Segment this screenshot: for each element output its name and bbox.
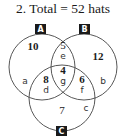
svg-text:C: C [59, 127, 65, 136]
letter-a: a [22, 76, 28, 86]
tag-a: A [35, 24, 46, 34]
region-abc-value: 4 [60, 64, 66, 76]
svg-text:B: B [81, 25, 87, 34]
letter-g: g [60, 76, 66, 86]
region-b-only-value: 12 [93, 50, 105, 62]
region-a-only-value: 10 [28, 40, 40, 52]
tag-b: B [79, 24, 90, 34]
letter-b: b [100, 76, 106, 86]
svg-text:A: A [37, 25, 44, 34]
region-ab-value: 5 [60, 39, 66, 51]
letter-d: d [43, 85, 49, 95]
letter-e: e [60, 51, 66, 61]
letter-f: f [80, 85, 84, 95]
venn-diagram: A B C 10 12 7 5 8 6 4 a b c d e f g [0, 0, 126, 140]
region-bc-value: 6 [79, 73, 85, 85]
tag-c: C [56, 126, 67, 136]
letter-c: c [84, 103, 89, 113]
region-ac-value: 8 [43, 73, 49, 85]
region-c-only-value: 7 [59, 104, 65, 116]
